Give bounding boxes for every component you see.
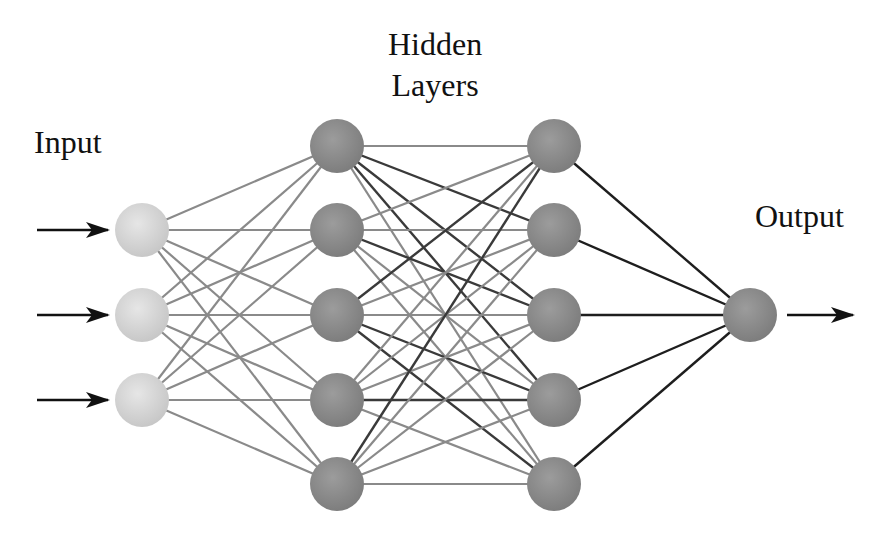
- connection-input-2-hidden1-0: [142, 146, 337, 400]
- hidden2-node-2: [527, 288, 581, 342]
- neural-network-diagram: Input Hidden Layers Output: [0, 0, 888, 538]
- hidden1-node-3: [310, 373, 364, 427]
- hidden2-node-3: [527, 373, 581, 427]
- input-node-2: [115, 373, 169, 427]
- hidden2-node-4: [527, 457, 581, 511]
- hidden-layers-label: Hidden Layers: [388, 24, 482, 106]
- hidden1-node-2: [310, 288, 364, 342]
- connection-hidden2-0-output-0: [554, 146, 750, 315]
- connections: [142, 146, 750, 484]
- hidden2-node-1: [527, 203, 581, 257]
- connection-hidden2-4-output-0: [554, 315, 750, 484]
- connection-hidden2-1-output-0: [554, 230, 750, 315]
- hidden1-node-1: [310, 203, 364, 257]
- input-node-0: [115, 203, 169, 257]
- output-node-0: [723, 288, 777, 342]
- connection-input-0-hidden1-0: [142, 146, 337, 230]
- hidden-label-line1: Hidden: [388, 24, 482, 65]
- hidden-label-line2: Layers: [388, 65, 482, 106]
- hidden1-node-4: [310, 457, 364, 511]
- hidden1-node-0: [310, 119, 364, 173]
- connection-hidden2-3-output-0: [554, 315, 750, 400]
- hidden2-node-0: [527, 119, 581, 173]
- connection-input-2-hidden1-4: [142, 400, 337, 484]
- input-layer-label: Input: [34, 126, 102, 158]
- output-layer-label: Output: [755, 200, 844, 232]
- input-node-1: [115, 288, 169, 342]
